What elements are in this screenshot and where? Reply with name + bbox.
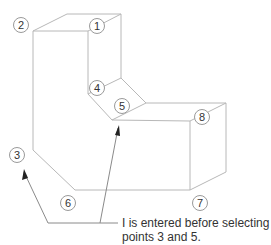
point-label-3: 3 (9, 147, 25, 163)
point-label-5: 5 (114, 98, 130, 114)
point-label-7: 7 (192, 195, 208, 211)
point-label-2: 2 (13, 17, 29, 33)
caption-line-2: points 3 and 5. (122, 230, 201, 244)
point-label-4: 4 (89, 80, 105, 96)
top-face (33, 14, 121, 31)
caption-line-1: I is entered before selecting (122, 216, 269, 230)
point-label-1: 1 (89, 18, 105, 34)
point-label-6: 6 (60, 195, 76, 211)
arrowhead-icon (115, 125, 120, 136)
point-label-8: 8 (194, 109, 210, 125)
solid-drawing (0, 0, 271, 245)
